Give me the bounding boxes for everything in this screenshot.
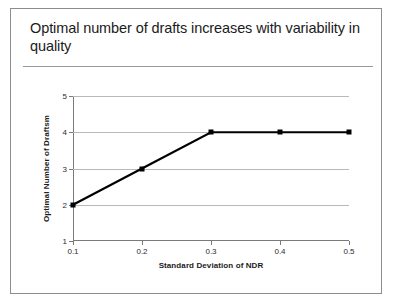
x-tick-mark <box>73 241 74 245</box>
data-point-marker <box>140 166 145 171</box>
y-axis-label: Optimal Number of Draftsm <box>41 96 53 241</box>
x-axis-label: Standard Deviation of NDR <box>73 261 349 270</box>
x-tick-mark <box>349 241 350 245</box>
x-tick-label: 0.5 <box>343 247 354 256</box>
x-tick-label: 0.3 <box>205 247 216 256</box>
x-tick-label: 0.4 <box>274 247 285 256</box>
slide-canvas: Optimal number of drafts increases with … <box>10 8 382 294</box>
series-line <box>73 96 349 241</box>
y-tick-label: 2 <box>63 200 67 209</box>
y-tick-label: 3 <box>63 164 67 173</box>
y-tick-label: 1 <box>63 237 67 246</box>
x-tick-mark <box>142 241 143 245</box>
y-tick-label: 5 <box>63 92 67 101</box>
data-point-marker <box>347 130 352 135</box>
x-tick-label: 0.1 <box>67 247 78 256</box>
data-point-marker <box>209 130 214 135</box>
y-tick-label: 4 <box>63 128 67 137</box>
data-point-marker <box>71 202 76 207</box>
x-tick-mark <box>211 241 212 245</box>
data-point-marker <box>278 130 283 135</box>
x-tick-mark <box>280 241 281 245</box>
line-chart: Optimal Number of Draftsm 12345 0.10.20.… <box>11 9 383 295</box>
plot-area: 12345 0.10.20.30.40.5 <box>73 96 349 241</box>
x-tick-label: 0.2 <box>136 247 147 256</box>
